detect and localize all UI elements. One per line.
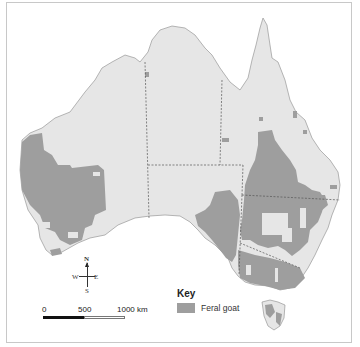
scale-label-0: 0 [42,305,46,314]
scale-label-1000: 1000 km [117,305,148,314]
scale-bar-black-segment [43,316,84,319]
compass-west: W [72,273,79,281]
compass-east: E [94,273,98,281]
compass-south: S [85,287,89,295]
compass-rose-icon: N W E S [72,255,102,295]
legend-swatch-feral-goat [177,303,195,313]
legend-label: Feral goat [201,303,239,313]
legend-item: Feral goat [177,303,239,313]
map-legend: Key Feral goat [177,288,239,313]
scale-label-500: 500 [78,305,91,314]
scale-bar-white-segment [84,316,125,319]
legend-title: Key [177,288,239,299]
scale-bar: 0 500 1000 km [40,305,140,325]
